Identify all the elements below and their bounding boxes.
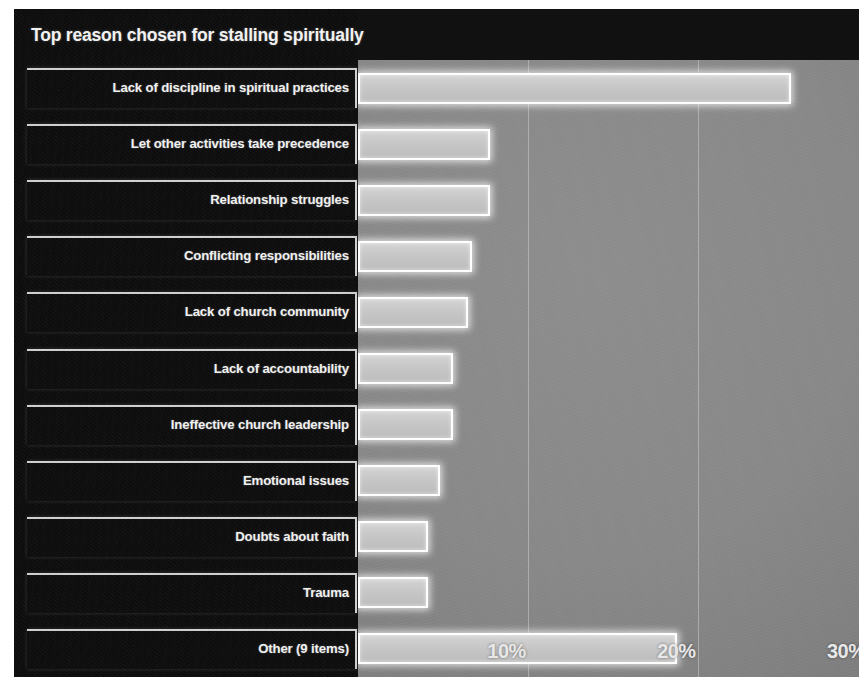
bar [358, 297, 468, 328]
page-title: Top reason chosen for stalling spiritual… [31, 25, 361, 46]
chart-figure: Top reason chosen for stalling spiritual… [14, 9, 859, 677]
category-label: Lack of accountability [214, 361, 349, 376]
bar [358, 521, 428, 552]
category-label: Doubts about faith [235, 529, 349, 544]
category-label: Conflicting responsibilities [184, 248, 349, 263]
bar [358, 241, 472, 272]
category-label: Lack of church community [185, 304, 349, 319]
bar [358, 409, 453, 440]
bar [358, 353, 453, 384]
x-tick-label: 30% [827, 640, 859, 663]
category-label-panel: Top reason chosen for stalling spiritual… [14, 9, 358, 677]
category-label: Emotional issues [243, 473, 349, 488]
category-label: Lack of discipline in spiritual practice… [113, 80, 349, 95]
gridline-10% [528, 60, 529, 677]
category-label: Relationship struggles [210, 192, 349, 207]
category-label: Let other activities take precedence [131, 136, 349, 151]
chart-screenshot: Top reason chosen for stalling spiritual… [0, 0, 863, 685]
bar [358, 577, 428, 608]
bar [358, 73, 791, 104]
bar [358, 129, 490, 160]
category-label: Trauma [303, 585, 349, 600]
bar [358, 185, 490, 216]
category-label: Other (9 items) [258, 641, 349, 656]
x-tick-label: 20% [657, 640, 696, 663]
plot-area [358, 60, 859, 677]
gridline-20% [698, 60, 699, 677]
bar [358, 465, 440, 496]
x-tick-label: 10% [487, 640, 526, 663]
category-label: Ineffective church leadership [171, 417, 349, 432]
